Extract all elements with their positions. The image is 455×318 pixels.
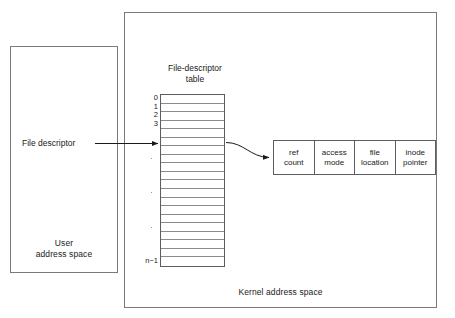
fd-table-row[interactable] [161,112,224,121]
fd-table-row[interactable] [161,189,224,198]
fd-table-row[interactable] [161,240,224,249]
fd-table-row[interactable] [161,198,224,207]
fd-table-ellipsis-dot [151,192,152,193]
fd-table-ellipsis-dot [151,227,152,228]
diagram-canvas: User address space Kernel address space … [0,0,455,318]
fd-table-row[interactable] [161,206,224,215]
fd-table-row[interactable] [161,172,224,181]
fd-table-row[interactable] [161,104,224,113]
fd-table-title: File-descriptor table [135,63,255,85]
fd-table [160,94,225,267]
kernel-address-space-label: Kernel address space [124,287,437,298]
fd-table-row[interactable] [161,129,224,138]
fd-table-row[interactable] [161,146,224,155]
fd-table-row[interactable] [161,95,224,104]
fd-table-row[interactable] [161,257,224,266]
fd-table-ellipsis-dot [151,158,152,159]
file-entry-cell-1[interactable]: access mode [315,141,356,174]
fd-table-index-3: 3 [154,120,158,128]
file-entry-cell-3[interactable]: inode pointer [396,141,436,174]
fd-table-row[interactable] [161,180,224,189]
fd-table-index-last: n−1 [145,257,158,265]
fd-table-row[interactable] [161,163,224,172]
fd-table-row[interactable] [161,138,224,147]
file-table-entry: ref countaccess modefile locationinode p… [273,140,436,175]
user-address-space-label: User address space [10,238,118,260]
fd-table-row[interactable] [161,155,224,164]
file-entry-cell-0[interactable]: ref count [274,141,315,174]
fd-table-row[interactable] [161,121,224,130]
fd-table-index-column: 0123n−1 [140,94,159,267]
fd-table-index-0: 0 [154,94,158,102]
fd-table-row[interactable] [161,249,224,258]
file-entry-cell-2[interactable]: file location [355,141,396,174]
fd-table-row[interactable] [161,223,224,232]
fd-table-index-2: 2 [154,111,158,119]
file-descriptor-label: File descriptor [22,138,75,149]
fd-table-row[interactable] [161,232,224,241]
fd-table-row[interactable] [161,215,224,224]
